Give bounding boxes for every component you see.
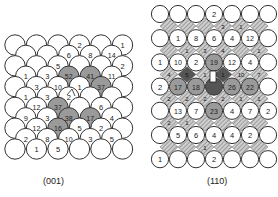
site-count: 17 [174,84,182,91]
site-count: 6 [212,34,216,43]
atom-site [241,5,258,22]
site-count: 1 [34,145,38,154]
atom-site: 19 [205,54,222,71]
atom-site [187,5,204,22]
panel-001-lattice: 2168145213524111310137132123769338174121… [5,35,133,159]
atom-site [259,30,276,47]
atom-site: 10 [169,54,186,71]
site-count: 10 [238,72,245,78]
site-count: 22 [246,84,254,91]
atom-site: 5 [48,139,68,159]
site-count: 12 [228,59,236,66]
panel-110-lattice: 3113414511107222211211218641211021912421… [151,5,276,167]
site-count: 41 [86,73,94,80]
atom-site [69,139,89,159]
site-count: 3 [88,135,92,144]
panel-110-label: (110) [207,176,227,186]
atom-site: 22 [241,78,258,95]
site-count: 5 [110,135,114,144]
atom-site: 2 [187,54,204,71]
site-count: 37 [54,104,62,111]
site-count: 1 [24,72,28,81]
site-count: 2 [266,107,270,116]
atom-site: 4 [223,126,240,143]
atom-site: 23 [205,102,222,119]
site-count: 6 [67,51,71,60]
panel-001-label: (001) [43,176,64,186]
site-count: 9 [24,114,28,123]
site-count: 6 [194,131,198,140]
site-count: 1 [158,155,162,164]
atom-site [241,151,258,168]
site-count: 8 [88,51,92,60]
atom-site [151,30,168,47]
marker-rectangle [210,71,216,82]
site-count: 14 [108,52,116,59]
site-count: 37 [97,84,105,91]
site-count: 12 [33,104,41,111]
atom-site [259,54,276,71]
atom-site: 4 [241,54,258,71]
site-count: 16 [54,125,62,132]
site-count: 7 [248,107,252,116]
atom-site: 6 [187,126,204,143]
atom-site: 2 [241,126,258,143]
atom-site [169,151,186,168]
site-count: 8 [194,34,198,43]
atom-site: 4 [223,102,240,119]
atom-site [259,78,276,95]
site-count: 26 [228,84,236,91]
atom-site [151,126,168,143]
atom-site: 2 [151,78,168,95]
atom-site [151,102,168,119]
atom-site [112,139,132,159]
site-count: 4 [248,58,252,67]
site-count: 6 [99,103,103,112]
atom-site [5,139,25,159]
site-count: 2 [212,10,216,19]
site-count: 10 [174,59,182,66]
atom-site: 4 [205,126,222,143]
atom-site [259,126,276,143]
site-count: 5 [56,62,60,71]
site-count: 5 [56,145,60,154]
site-count: 4 [230,107,234,116]
site-count: 4 [230,131,234,140]
site-count: 10 [65,136,73,143]
atom-site [259,151,276,168]
atom-site: 1 [151,151,168,168]
site-count: 2 [99,124,103,133]
atom-site: 1 [169,30,186,47]
site-count: 23 [210,108,218,115]
atom-site: 6 [205,30,222,47]
atom-site: 13 [169,102,186,119]
atom-site: 7 [241,102,258,119]
site-count: 3 [34,83,38,92]
site-count: 18 [192,84,200,91]
atom-site: 17 [169,78,186,95]
site-count: 1 [24,93,28,102]
atom-site [259,5,276,22]
site-count: 2 [194,58,198,67]
site-count: 2 [212,155,216,164]
site-count: 2 [158,83,162,92]
site-count: 19 [210,59,218,66]
site-count: 10 [54,84,62,91]
atom-site [169,5,186,22]
atom-site: 12 [223,54,240,71]
site-count: 3 [45,93,49,102]
site-count: 13 [174,108,182,115]
site-count: 17 [86,115,94,122]
site-count: 12 [33,125,41,132]
site-count: 8 [45,135,49,144]
atom-site: 8 [187,30,204,47]
site-count: 11 [108,73,115,80]
atom-site: 2 [205,5,222,22]
atom-site: 12 [241,30,258,47]
site-count: 2 [248,131,252,140]
atom-site [223,151,240,168]
site-count: 7 [194,107,198,116]
site-count: 1 [77,83,81,92]
site-count: 1 [158,58,162,67]
site-count: 4 [110,114,114,123]
